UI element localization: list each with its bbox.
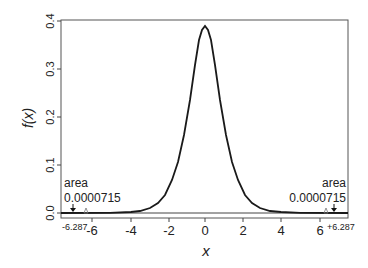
y-axis: 0.0 0.1 0.2 0.3 0.4 f(x) [20,13,61,220]
right-arrowhead-icon [331,208,337,212]
x-tick-label: 0 [201,223,208,238]
y-tick-label: 0.0 [44,205,56,220]
right-area-value: 0.0000715 [289,191,346,205]
density-curve [61,26,348,213]
x-axis-label: x [201,242,210,259]
plot-frame [61,20,348,218]
x-axis: -6 -4 -2 0 2 4 6 x [86,218,323,259]
y-tick-label: 0.2 [44,109,56,124]
y-axis-label: f(x) [20,108,36,128]
left-area-label: area [64,176,88,190]
y-tick-label: 0.1 [44,157,56,172]
right-area-label: area [322,176,346,190]
right-cutoff-label: +6.287 [327,222,355,232]
left-arrowhead-icon [70,208,76,212]
y-tick-label: 0.4 [44,13,56,28]
x-tick-label: 4 [277,223,284,238]
x-tick-label: 6 [316,223,323,238]
density-chart: 0.0 0.1 0.2 0.3 0.4 f(x) -6 -4 -2 0 2 4 … [0,0,368,268]
left-area-value: 0.0000715 [64,191,121,205]
x-tick-label: -4 [125,223,137,238]
x-tick-label: -6 [86,223,98,238]
y-tick-label: 0.3 [44,61,56,76]
x-tick-label: -2 [163,223,175,238]
left-cutoff-label: -6.287 [62,222,88,232]
x-tick-label: 2 [239,223,246,238]
